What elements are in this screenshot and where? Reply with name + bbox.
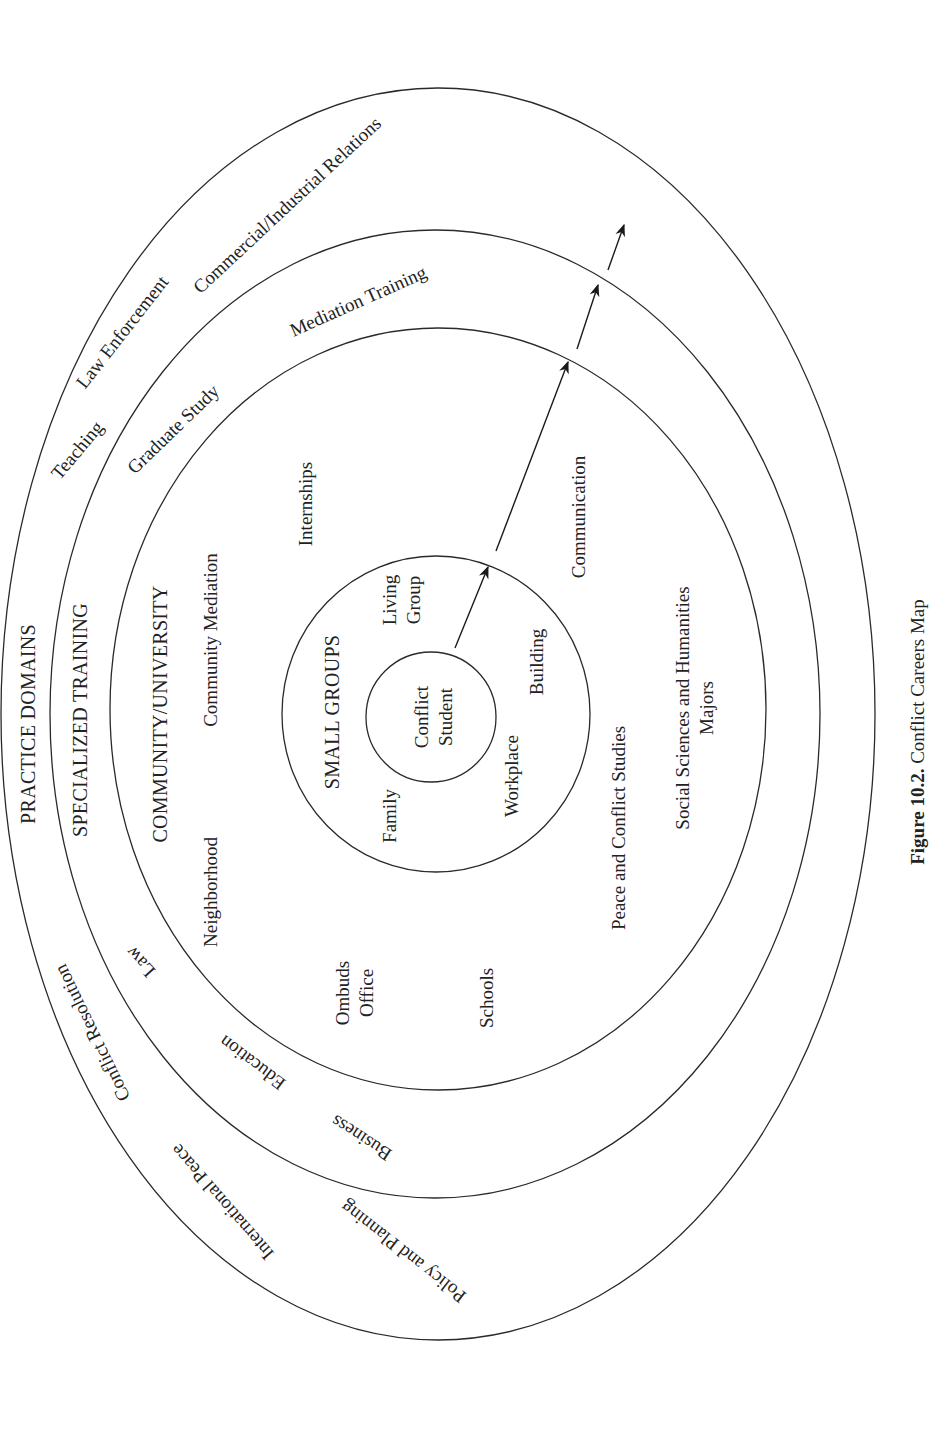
label-community-mediation: Community Mediation xyxy=(201,553,220,727)
figure-caption: Figure 10.2. Conflict Careers Map xyxy=(908,599,927,865)
label-living: Living xyxy=(378,575,402,626)
community-university-title: COMMUNITY/UNIVERSITY xyxy=(150,585,170,842)
label-family: Family xyxy=(380,789,399,843)
practice-domains-title: PRACTICE DOMAINS xyxy=(18,624,38,824)
diagram-shapes xyxy=(0,0,930,1436)
conflict-careers-map-diagram: PRACTICE DOMAINS SPECIALIZED TRAINING CO… xyxy=(0,0,930,1436)
label-social-sciences-and-humanities: Social Sciences and Humanities xyxy=(671,586,695,829)
label-internships: Internships xyxy=(296,462,315,546)
label-conflict: Conflict xyxy=(410,686,434,748)
career-path-arrow-icon xyxy=(496,362,568,551)
career-path-arrow-icon xyxy=(577,285,598,349)
figure-number: Figure 10.2. xyxy=(907,769,928,865)
label-peace-and-conflict-studies: Peace and Conflict Studies xyxy=(609,726,628,930)
label-ombuds: Ombuds xyxy=(331,961,355,1025)
label-ombuds-office: Ombuds Office xyxy=(331,961,379,1025)
label-majors: Majors xyxy=(695,586,719,829)
label-building: Building xyxy=(527,629,546,696)
label-schools: Schools xyxy=(477,968,496,1028)
label-group: Group xyxy=(402,575,426,626)
label-office: Office xyxy=(355,961,379,1025)
label-communication: Communication xyxy=(569,456,588,578)
specialized-training-title: SPECIALIZED TRAINING xyxy=(70,603,90,837)
label-living-group: Living Group xyxy=(378,575,426,626)
label-conflict-student: Conflict Student xyxy=(410,686,458,748)
figure-title: Conflict Careers Map xyxy=(907,599,928,764)
small-groups-title: SMALL GROUPS xyxy=(322,635,342,790)
label-workplace: Workplace xyxy=(502,735,521,817)
label-social-sciences-humanities-majors: Social Sciences and Humanities Majors xyxy=(671,586,719,829)
career-path-arrow-icon xyxy=(608,225,624,270)
label-student: Student xyxy=(434,686,458,748)
label-neighborhood: Neighborhood xyxy=(201,837,220,947)
career-path-arrow-icon xyxy=(455,567,488,648)
